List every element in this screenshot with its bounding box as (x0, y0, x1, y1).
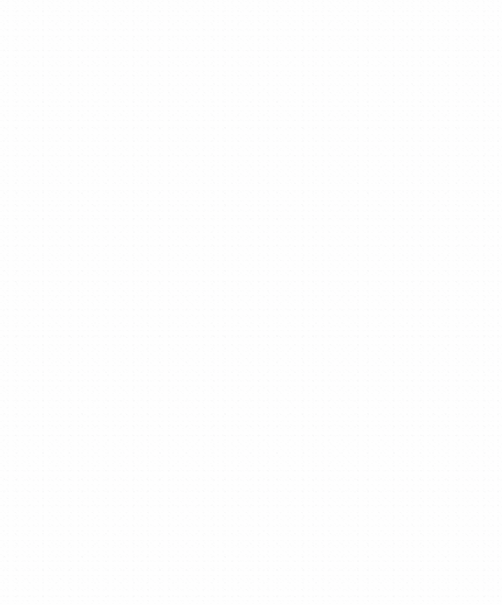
text-block (253, 395, 470, 558)
document-page (0, 0, 502, 605)
text-block-body (33, 106, 250, 210)
text-block-body (33, 407, 250, 488)
document-content-area (33, 88, 470, 558)
text-block (253, 265, 470, 395)
text-block-body (33, 279, 250, 349)
text-block (33, 395, 250, 558)
text-block-body (253, 407, 470, 500)
text-block (33, 265, 250, 395)
text-block-body (253, 275, 470, 345)
text-block (253, 88, 470, 265)
text-block-body (253, 114, 470, 195)
text-block (33, 88, 250, 265)
